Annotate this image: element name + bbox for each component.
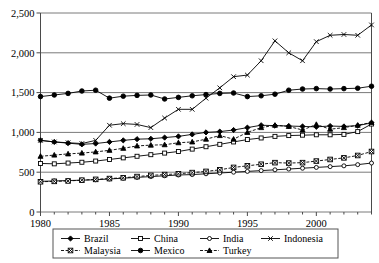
marker-open-square [135, 154, 139, 158]
marker-open-square [66, 161, 70, 165]
marker-filled-triangle [231, 137, 236, 142]
datapoint-turkey-1986 [121, 146, 126, 151]
marker-open-square [52, 162, 56, 166]
datapoint-china-1999 [301, 133, 305, 137]
series-line-indonesia [41, 25, 372, 144]
marker-open-square [328, 133, 332, 137]
marker-filled-circle [190, 93, 195, 98]
datapoint-malaysia-1995 [245, 164, 250, 169]
datapoint-india-1994 [232, 170, 236, 174]
legend-marker-malaysia [68, 248, 73, 253]
datapoint-mexico-1994 [231, 91, 236, 96]
marker-open-square [287, 134, 291, 138]
datapoint-india-2002 [342, 164, 346, 168]
marker-open-circle [314, 165, 318, 169]
datapoint-brazil-1994 [231, 127, 236, 132]
datapoint-mexico-1990 [176, 95, 181, 100]
datapoint-malaysia-1990 [176, 171, 181, 176]
datapoint-turkey-2003 [355, 123, 360, 128]
datapoint-turkey-1982 [66, 151, 71, 156]
datapoint-mexico-2002 [342, 86, 347, 91]
legend-label-india: India [223, 233, 244, 244]
marker-filled-diamond [231, 127, 236, 132]
datapoint-turkey-1990 [176, 140, 181, 145]
marker-filled-circle [328, 87, 333, 92]
marker-filled-circle [204, 92, 209, 97]
y-axis-labels-group: 05001,0001,5002,0002,500 [11, 8, 41, 218]
marker-filled-circle [245, 94, 250, 99]
gridlines-group [41, 13, 372, 212]
datapoint-china-1996 [259, 136, 263, 140]
marker-open-circle [287, 167, 291, 171]
series-brazil [38, 120, 374, 147]
y-tick-label-1000: 1,000 [11, 127, 35, 138]
datapoint-malaysia-1989 [162, 172, 167, 177]
marker-filled-circle [176, 95, 181, 100]
y-tick-label-500: 500 [19, 167, 35, 178]
marker-open-circle [232, 170, 236, 174]
marker-filled-triangle [245, 130, 250, 135]
datapoint-india-2000 [314, 165, 318, 169]
datapoint-malaysia-1982 [66, 179, 71, 184]
datapoint-malaysia-1994 [231, 165, 236, 170]
datapoint-mexico-1998 [286, 88, 291, 93]
marker-open-circle [208, 237, 212, 241]
y-tick-label-1500: 1,500 [11, 87, 35, 98]
datapoint-china-1985 [107, 157, 111, 161]
marker-filled-triangle [286, 124, 291, 129]
datapoint-india-1995 [245, 169, 249, 173]
datapoint-indonesia-1993 [217, 86, 222, 91]
series-line-malaysia [41, 152, 372, 182]
marker-filled-circle [217, 91, 222, 96]
marker-filled-diamond [148, 136, 153, 141]
datapoint-mexico-2004 [369, 84, 374, 89]
datapoint-indonesia-1989 [162, 116, 167, 121]
marker-filled-triangle [148, 143, 153, 148]
marker-open-square [218, 142, 222, 146]
marker-filled-circle [107, 96, 112, 101]
marker-filled-triangle [52, 152, 57, 157]
marker-filled-circle [273, 92, 278, 97]
marker-open-circle [370, 161, 374, 165]
datapoint-brazil-1988 [148, 136, 153, 141]
datapoint-mexico-1995 [245, 94, 250, 99]
marker-filled-triangle [135, 143, 140, 148]
marker-filled-triangle [369, 120, 374, 125]
datapoint-mexico-1983 [80, 89, 85, 94]
legend-label-china: China [154, 233, 178, 244]
x-axis-ticks-group: 19801985199019952000 [30, 212, 372, 229]
marker-open-circle [259, 169, 263, 173]
marker-filled-diamond [134, 137, 139, 142]
datapoint-turkey-1992 [204, 137, 209, 142]
marker-filled-diamond [162, 135, 167, 140]
marker-filled-circle [121, 94, 126, 99]
datapoint-china-1990 [176, 150, 180, 154]
datapoint-turkey-1997 [272, 123, 277, 128]
datapoint-turkey-1988 [148, 143, 153, 148]
datapoint-india-1996 [259, 169, 263, 173]
datapoint-mexico-1993 [217, 91, 222, 96]
datapoint-india-2001 [328, 165, 332, 169]
datapoint-china-1997 [273, 134, 277, 138]
datapoint-mexico-1988 [149, 93, 154, 98]
datapoint-malaysia-1988 [149, 173, 154, 178]
datapoint-china-2003 [356, 130, 360, 134]
marker-filled-circle [355, 86, 360, 91]
y-tick-label-2500: 2,500 [11, 8, 35, 19]
marker-open-square [342, 132, 346, 136]
marker-filled-circle [162, 97, 167, 102]
marker-filled-triangle [121, 146, 126, 151]
marker-filled-circle [66, 91, 71, 96]
y-tick-label-2000: 2,000 [11, 48, 35, 59]
marker-filled-circle [259, 93, 264, 98]
datapoint-china-2000 [314, 133, 318, 137]
marker-filled-triangle [162, 142, 167, 147]
datapoint-china-1993 [218, 142, 222, 146]
datapoint-malaysia-2003 [355, 153, 360, 158]
datapoint-mexico-1982 [66, 91, 71, 96]
legend-label-turkey: Turkey [223, 245, 252, 256]
datapoint-turkey-2000 [314, 122, 319, 127]
datapoint-mexico-1992 [204, 92, 209, 97]
datapoint-malaysia-1993 [217, 168, 222, 173]
datapoint-mexico-1987 [135, 93, 140, 98]
